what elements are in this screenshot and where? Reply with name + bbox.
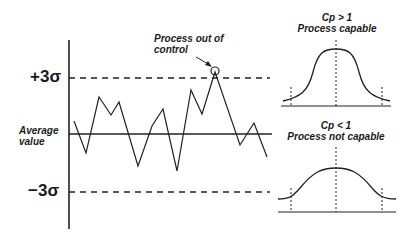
arrow-head-icon: [205, 61, 212, 67]
capable-title: Cp > 1 Process capable: [270, 13, 404, 34]
lower-limit-label: −3σ: [28, 181, 59, 201]
out-of-control-annotation: Process out of control: [154, 34, 223, 55]
not-capable-distribution: [278, 147, 396, 212]
not-capable-cp-label: Cp < 1: [268, 121, 404, 132]
annotation-line1: Process out of: [154, 34, 223, 45]
process-line: [74, 72, 267, 171]
not-capable-title: Cp < 1 Process not capable: [268, 121, 404, 142]
capable-subtitle: Process capable: [270, 24, 404, 35]
average-label-line1: Average: [19, 126, 58, 137]
capable-distribution: [281, 40, 391, 106]
upper-limit-label: +3σ: [30, 67, 61, 87]
annotation-line2: control: [154, 45, 223, 56]
capable-cp-label: Cp > 1: [270, 13, 404, 24]
average-label-line2: value: [19, 137, 58, 148]
average-value-label: Average value: [19, 126, 58, 147]
not-capable-subtitle: Process not capable: [268, 132, 404, 143]
